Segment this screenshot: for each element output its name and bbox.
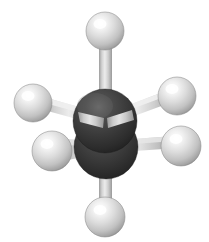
atom-hydrogen-bottom — [85, 197, 125, 237]
atom-hydrogen-lower-left — [32, 131, 72, 171]
atom-hydrogen-lower-right — [161, 126, 201, 166]
atom-hydrogen-top — [86, 12, 124, 50]
molecule-scene — [0, 0, 209, 242]
atom-hydrogen-upper-right — [158, 77, 196, 115]
molecule-viewport: Ethane C2H6 — [0, 0, 209, 242]
atom-hydrogen-upper-left — [14, 84, 52, 122]
